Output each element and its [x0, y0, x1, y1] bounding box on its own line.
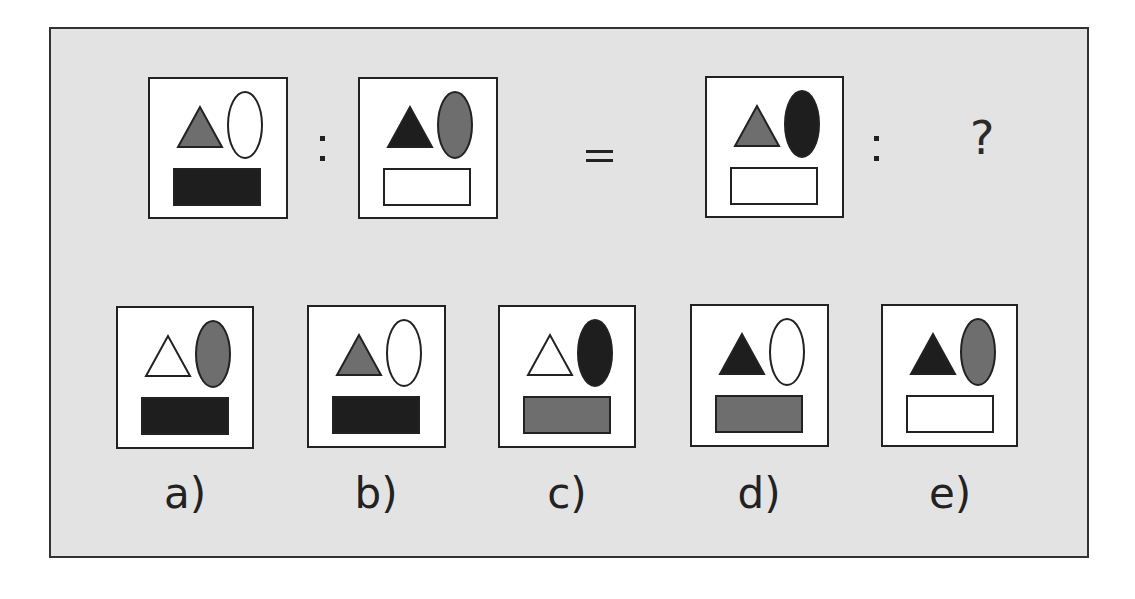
figure-shapes	[707, 78, 842, 216]
colon-1-top	[320, 136, 325, 141]
figure-shapes	[500, 307, 634, 446]
option-a-label[interactable]: a)	[115, 473, 255, 515]
figure-shapes	[150, 79, 286, 217]
colon-1-bottom	[320, 156, 325, 161]
triangle-gray	[337, 335, 381, 375]
ellipse-white	[770, 319, 804, 385]
option-a-figure[interactable]	[116, 306, 254, 449]
equals-bottom	[586, 159, 613, 162]
figure-shapes	[309, 307, 444, 446]
ellipse-white	[387, 320, 421, 386]
equals-top	[586, 150, 613, 153]
option-e-label[interactable]: e)	[880, 473, 1020, 515]
ellipse-gray	[961, 319, 995, 385]
triangle-black	[388, 107, 432, 147]
triangle-white	[528, 335, 572, 375]
rectangle-black	[142, 398, 228, 434]
ellipse-gray	[196, 321, 230, 387]
rectangle-white	[907, 396, 993, 432]
option-d-label[interactable]: d)	[689, 473, 829, 515]
rectangle-gray	[716, 396, 802, 432]
analogy-figure-b	[358, 77, 498, 219]
triangle-gray	[178, 107, 222, 147]
option-e-figure[interactable]	[881, 304, 1018, 447]
triangle-black	[720, 334, 764, 374]
analogy-figure-c	[705, 76, 844, 218]
ellipse-black	[785, 91, 819, 157]
triangle-white	[146, 336, 190, 376]
rectangle-white	[384, 169, 470, 205]
question-mark: ?	[970, 115, 994, 161]
option-b-figure[interactable]	[307, 305, 446, 448]
ellipse-white	[228, 92, 262, 158]
figure-shapes	[883, 306, 1016, 445]
figure-shapes	[692, 306, 827, 445]
rectangle-gray	[524, 397, 610, 433]
triangle-black	[911, 334, 955, 374]
colon-2-top	[874, 136, 879, 141]
option-c-label[interactable]: c)	[497, 473, 637, 515]
rectangle-black	[333, 397, 419, 433]
figure-shapes	[118, 308, 252, 447]
triangle-gray	[735, 106, 779, 146]
option-b-label[interactable]: b)	[306, 473, 446, 515]
ellipse-gray	[438, 92, 472, 158]
analogy-figure-a	[148, 77, 288, 219]
option-c-figure[interactable]	[498, 305, 636, 448]
rectangle-white	[731, 168, 817, 204]
rectangle-black	[174, 169, 260, 205]
colon-2-bottom	[874, 156, 879, 161]
figure-shapes	[360, 79, 496, 217]
ellipse-black	[578, 320, 612, 386]
option-d-figure[interactable]	[690, 304, 829, 447]
